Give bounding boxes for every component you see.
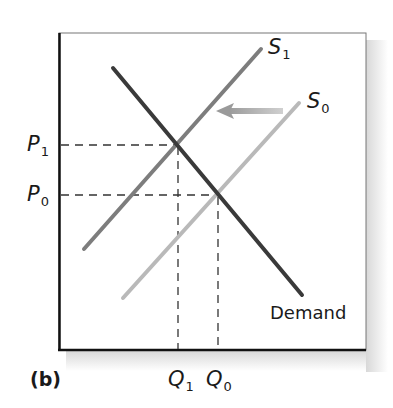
supply-s0-label: S0 [307,91,330,112]
price-label-p1: P1 [27,134,49,155]
supply-s1-label: S1 [268,37,291,58]
panel-label: (b) [30,370,61,389]
quantity-label-q1: Q1 [168,369,194,390]
demand-label: Demand [270,304,346,322]
supply-demand-diagram [0,0,393,408]
frame-shadow-right [366,40,388,372]
quantity-label-q0: Q0 [206,369,232,390]
price-label-p0: P0 [27,184,49,205]
